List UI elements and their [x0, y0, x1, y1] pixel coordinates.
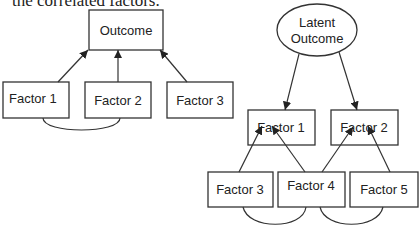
latent-label-line2: Outcome	[291, 31, 344, 46]
arrow-latent-to-f1	[285, 54, 299, 110]
outcome-label: Outcome	[100, 23, 153, 38]
latent-label-line1: Latent	[299, 15, 336, 30]
right-factor-5-label: Factor 5	[360, 182, 408, 197]
arrow-f1-to-outcome	[58, 50, 88, 82]
right-factor-2-label: Factor 2	[340, 120, 388, 135]
right-factor-3-label: Factor 3	[216, 182, 264, 197]
arrow-f3-to-outcome	[160, 50, 187, 82]
right-factor-4-label: Factor 4	[287, 178, 335, 193]
right-factor-1-label: Factor 1	[257, 120, 305, 135]
correlation-arc-f3-f4	[243, 207, 306, 224]
arrow-latent-to-f2	[339, 52, 357, 110]
diagram-canvas: Outcome Factor 1 Factor 2 Factor 3 Laten…	[0, 0, 420, 229]
correlation-arc-f1-f2	[43, 118, 120, 130]
left-factor-2-label: Factor 2	[94, 93, 142, 108]
correlation-arc-f4-f5	[320, 207, 383, 224]
latent-outcome-node	[277, 4, 357, 56]
right-diagram: Latent Outcome Factor 1 Factor 2 Factor …	[208, 4, 418, 224]
left-diagram: Outcome Factor 1 Factor 2 Factor 3	[3, 10, 233, 130]
left-factor-1-label: Factor 1	[9, 91, 57, 106]
left-factor-3-label: Factor 3	[176, 93, 224, 108]
